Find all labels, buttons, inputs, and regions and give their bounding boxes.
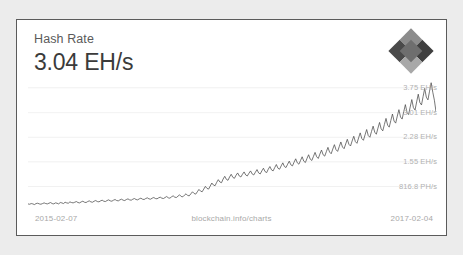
y-axis-tick-label: 1.55 EH/s — [403, 157, 437, 166]
hash-rate-line-chart — [28, 76, 436, 214]
hash-rate-value: 3.04 EH/s — [34, 49, 334, 76]
x-axis-start-date: 2015-02-07 — [35, 214, 77, 223]
source-attribution: blockchain.info/charts — [191, 214, 271, 223]
y-axis-tick-label: 3.01 EH/s — [403, 108, 437, 117]
y-axis-tick-label: 816.8 PH/s — [399, 182, 437, 191]
screenshot-page: Hash Rate 3.04 EH/s 3.75 EH/s 3.01 EH/s — [0, 0, 463, 255]
blockchain-info-diamond-logo — [387, 27, 435, 75]
chart-gridlines — [28, 88, 436, 187]
hash-rate-plot — [28, 76, 436, 214]
page-title: Hash Rate — [34, 32, 334, 47]
card-header: Hash Rate 3.04 EH/s — [34, 32, 334, 76]
y-axis-tick-label: 2.28 EH/s — [403, 132, 437, 141]
card-footer: 2015-02-07 blockchain.info/charts 2017-0… — [17, 214, 446, 226]
x-axis-end-date: 2017-02-04 — [391, 214, 433, 223]
hash-rate-chart-card: Hash Rate 3.04 EH/s 3.75 EH/s 3.01 EH/s — [16, 19, 447, 236]
y-axis-tick-label: 3.75 EH/s — [403, 83, 437, 92]
